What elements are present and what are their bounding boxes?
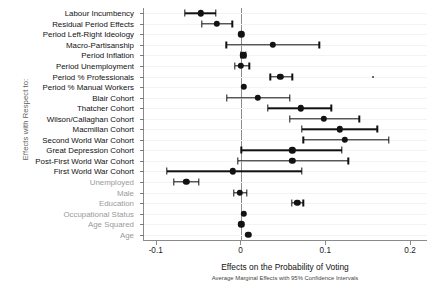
confidence-interval-cap — [215, 10, 216, 17]
confidence-interval-cap — [173, 179, 174, 186]
y-axis-tick — [140, 87, 144, 88]
confidence-interval-cap — [303, 200, 304, 207]
zero-reference-line — [241, 8, 242, 240]
y-axis-tick-label: Unemployed — [90, 178, 134, 187]
point-estimate-marker — [214, 21, 220, 27]
point-estimate-marker — [230, 168, 236, 174]
confidence-interval-cap — [341, 147, 342, 154]
y-axis-tick-label: Period Unemployment — [56, 62, 134, 71]
confidence-interval-cap — [226, 94, 227, 101]
y-axis-tick — [140, 129, 144, 130]
y-axis-tick — [140, 13, 144, 14]
y-axis-tick-label: Male — [117, 188, 134, 197]
confidence-interval-cap — [237, 157, 238, 164]
confidence-interval-cap — [331, 105, 332, 112]
point-estimate-marker — [298, 105, 304, 111]
y-axis-tick-label: Residual Period Effects — [52, 19, 134, 28]
confidence-interval-cap — [270, 73, 271, 80]
y-axis-tick — [140, 55, 144, 56]
gridline — [144, 119, 427, 120]
x-axis-title: Effects on the Probability of Voting — [143, 262, 427, 272]
point-estimate-marker — [183, 179, 189, 185]
y-axis-tick-label: Occupational Status — [63, 209, 134, 218]
confidence-interval-cap — [301, 126, 302, 133]
confidence-interval-cap — [388, 136, 389, 143]
confidence-interval-cap — [301, 168, 302, 175]
y-axis-tick — [140, 203, 144, 204]
gridline — [144, 66, 427, 67]
x-axis-tick — [325, 240, 326, 245]
y-axis-tick-label: Blair Cohort — [92, 93, 134, 102]
y-axis-tick — [140, 77, 144, 78]
y-axis-tick-label: Great Depression Cohort — [46, 146, 134, 155]
confidence-interval-cap — [246, 189, 247, 196]
y-axis-tick — [140, 214, 144, 215]
y-axis-tick-label: Thatcher Cohort — [77, 104, 134, 113]
y-axis-tick-label: Second World War Cohort — [42, 135, 134, 144]
x-axis-tick-label: 0.1 — [320, 246, 331, 255]
confidence-interval-cap — [184, 10, 185, 17]
x-axis-tick — [156, 240, 157, 245]
confidence-interval-cap — [319, 41, 320, 48]
gridline — [144, 55, 427, 56]
point-estimate-marker — [198, 10, 204, 16]
y-axis-tick — [140, 235, 144, 236]
point-estimate-marker — [238, 221, 244, 227]
confidence-interval-cap — [226, 41, 227, 48]
plot-area — [143, 8, 427, 240]
point-estimate-marker — [241, 84, 247, 90]
confidence-interval-cap — [359, 115, 360, 122]
y-axis-tick — [140, 108, 144, 109]
y-axis-tick-label: Post-First World War Cohort — [35, 156, 134, 165]
y-axis-tick — [140, 182, 144, 183]
y-axis-tick — [140, 193, 144, 194]
y-axis-tick-label: Period % Manual Workers — [42, 83, 134, 92]
y-axis-tick — [140, 150, 144, 151]
y-axis-tick — [140, 119, 144, 120]
confidence-interval-cap — [234, 63, 235, 70]
confidence-interval-cap — [291, 200, 292, 207]
point-estimate-marker — [277, 73, 283, 79]
confidence-interval-cap — [292, 73, 293, 80]
confidence-interval-cap — [198, 179, 199, 186]
gridline — [144, 24, 427, 25]
gridline — [144, 87, 427, 88]
gridline — [144, 193, 427, 194]
x-axis-tick-label: 0.2 — [404, 246, 415, 255]
point-estimate-marker — [270, 42, 276, 48]
y-axis-tick-label: Period % Professionals — [52, 72, 134, 81]
y-axis-tick-label: Age Squared — [88, 220, 134, 229]
confidence-interval-cap — [289, 94, 290, 101]
y-axis-tick-labels: Labour IncumbencyResidual Period Effects… — [0, 8, 138, 240]
y-axis-tick-label: Wilson/Callaghan Cohort — [47, 114, 134, 123]
y-axis-tick — [140, 45, 144, 46]
y-axis-tick-label: Macro-Partisanship — [66, 40, 134, 49]
x-axis-tick-label: 0 — [238, 246, 243, 255]
confidence-interval-cap — [348, 157, 349, 164]
forest-plot-figure: Effects with Respect to: Labour Incumben… — [0, 0, 430, 297]
gridline — [144, 203, 427, 204]
gridline — [144, 235, 427, 236]
y-axis-tick — [140, 66, 144, 67]
y-axis-tick-label: Period Left-Right Ideology — [43, 30, 134, 39]
gridline — [144, 214, 427, 215]
confidence-interval-cap — [303, 136, 304, 143]
confidence-interval-cap — [201, 20, 202, 27]
confidence-interval-cap — [231, 20, 232, 27]
y-axis-tick-label: Period Inflation — [81, 51, 134, 60]
y-axis-tick-label: Education — [99, 199, 134, 208]
stray-marker — [372, 76, 374, 78]
confidence-interval-cap — [289, 115, 290, 122]
confidence-interval-cap — [166, 168, 167, 175]
point-estimate-marker — [241, 210, 247, 216]
x-axis-tick — [240, 240, 241, 245]
y-axis-tick-label: First World War Cohort — [54, 167, 134, 176]
y-axis-tick — [140, 98, 144, 99]
point-estimate-marker — [289, 158, 295, 164]
confidence-interval-cap — [248, 63, 249, 70]
confidence-interval-cap — [267, 105, 268, 112]
point-estimate-marker — [237, 63, 243, 69]
x-axis: -0.100.10.2 — [143, 240, 427, 241]
y-axis-tick — [140, 161, 144, 162]
x-axis-tick — [410, 240, 411, 245]
